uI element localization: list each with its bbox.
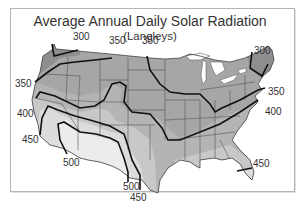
contour-label: 500 — [63, 157, 80, 168]
contour-label: 350 — [109, 35, 126, 46]
map-title: Average Annual Daily Solar Radiation — [0, 13, 300, 29]
contour-label: 350 — [15, 78, 32, 89]
contour-label: 350 — [142, 35, 159, 46]
contour-label: 450 — [253, 158, 270, 169]
contour-label: 350 — [268, 86, 285, 97]
contour-label: 450 — [130, 192, 147, 203]
contour-label: 400 — [17, 108, 34, 119]
contour-label: 500 — [123, 181, 140, 192]
contour-label: 450 — [22, 134, 39, 145]
contour-label: 400 — [265, 106, 282, 117]
contour-label: 300 — [73, 31, 90, 42]
zone-450-florida — [236, 168, 260, 200]
contour-label: 300 — [254, 45, 271, 56]
